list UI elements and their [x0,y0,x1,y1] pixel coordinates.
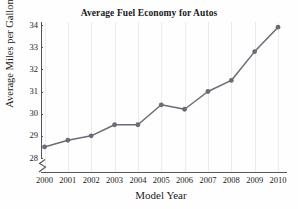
data-point-marker [252,49,257,54]
data-point-marker [159,102,164,107]
data-point-marker [229,78,234,83]
series-polyline [45,27,279,147]
data-point-marker [276,25,281,30]
y-axis-tick-mark [41,69,43,70]
data-point-marker [206,89,211,94]
y-axis-tick-mark [41,47,43,48]
data-point-marker [112,122,117,127]
data-series-line [0,0,298,209]
fuel-economy-line-chart: Average Fuel Economy for Autos Average M… [0,0,298,209]
data-point-marker [42,145,47,150]
y-axis-tick-mark [41,25,43,26]
data-point-marker [182,107,187,112]
data-point-marker [89,133,94,138]
y-axis-tick-mark [41,158,43,159]
data-point-marker [65,138,70,143]
y-axis-tick-mark [41,136,43,137]
data-point-marker [136,122,141,127]
y-axis-tick-mark [41,92,43,93]
y-axis-tick-mark [41,114,43,115]
